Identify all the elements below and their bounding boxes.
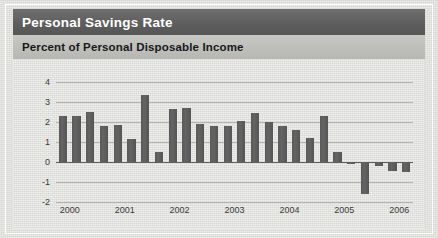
bar	[320, 116, 328, 162]
chart-subtitle-bar: Percent of Personal Disposable Income	[13, 35, 425, 59]
bar	[72, 116, 80, 162]
x-axis-tick-label: 2006	[389, 205, 409, 215]
y-axis-tick-label: 2	[24, 118, 50, 127]
chart-title-bar: Personal Savings Rate	[13, 9, 425, 35]
bar	[182, 108, 190, 162]
chart-subtitle: Percent of Personal Disposable Income	[13, 41, 244, 53]
x-axis-tick-label: 2003	[224, 205, 244, 215]
x-axis-tick-label: 2005	[334, 205, 354, 215]
bar	[155, 152, 163, 162]
bar	[388, 162, 396, 171]
y-axis-tick-label: 3	[24, 98, 50, 107]
bar	[86, 112, 94, 162]
y-axis-tick-label: -2	[24, 198, 50, 207]
x-axis-tick-label: 2004	[279, 205, 299, 215]
bar	[237, 121, 245, 162]
y-axis-tick-label: 4	[24, 78, 50, 87]
page-title: Personal Savings Rate	[13, 15, 173, 30]
bar-series-group	[56, 59, 413, 229]
bar	[361, 162, 369, 194]
bar	[265, 122, 273, 162]
bar	[402, 162, 410, 172]
bar	[169, 109, 177, 162]
y-axis-tick-label: 0	[24, 158, 50, 167]
x-axis-tick-labels: 2000200120022003200420052006	[56, 205, 413, 225]
bar	[347, 162, 355, 164]
y-axis-tick-labels: 43210-1-2	[24, 59, 50, 229]
bar	[196, 124, 204, 162]
bar	[278, 126, 286, 162]
chart-plot-panel: 43210-1-2 2000200120022003200420052006	[13, 59, 425, 229]
bar	[224, 126, 232, 162]
y-axis-tick-label: -1	[24, 178, 50, 187]
bar	[306, 138, 314, 162]
bar	[114, 125, 122, 162]
bar	[127, 139, 135, 162]
bar	[210, 126, 218, 162]
chart-screenshot: Personal Savings Rate Percent of Persona…	[0, 0, 438, 238]
bar	[59, 116, 67, 162]
bar	[251, 113, 259, 162]
bar	[100, 126, 108, 162]
x-axis-tick-label: 2000	[60, 205, 80, 215]
x-axis-tick-label: 2002	[170, 205, 190, 215]
bar	[292, 130, 300, 162]
bar	[141, 95, 149, 162]
bar	[375, 162, 383, 166]
bar	[333, 152, 341, 162]
y-axis-tick-label: 1	[24, 138, 50, 147]
x-axis-tick-label: 2001	[115, 205, 135, 215]
